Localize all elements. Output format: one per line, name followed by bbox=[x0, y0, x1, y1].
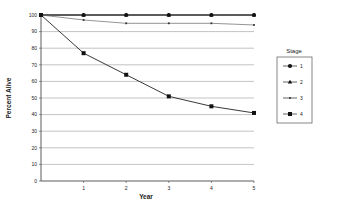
y-tick-label: 90 bbox=[31, 28, 37, 34]
square-marker-icon bbox=[39, 13, 43, 17]
dash-marker-icon bbox=[125, 22, 127, 24]
dash-marker-icon bbox=[168, 22, 170, 24]
y-tick-label: 60 bbox=[31, 78, 37, 84]
series-stage-3 bbox=[40, 14, 255, 26]
dash-marker-icon bbox=[253, 24, 255, 26]
square-marker-icon bbox=[252, 111, 256, 115]
square-marker-icon bbox=[209, 104, 213, 108]
legend-box bbox=[277, 57, 312, 123]
series-stage-4 bbox=[39, 13, 256, 115]
x-axis-title: Year bbox=[139, 193, 153, 200]
legend-label: 2 bbox=[300, 79, 303, 85]
legend-title: Stage bbox=[286, 48, 302, 54]
legend-label: 1 bbox=[300, 63, 303, 69]
x-tick-label: 1 bbox=[82, 185, 85, 191]
y-tick-label: 80 bbox=[31, 45, 37, 51]
dash-marker-icon bbox=[211, 22, 213, 24]
circle-marker-icon bbox=[288, 64, 292, 68]
square-marker-icon bbox=[167, 94, 171, 98]
y-tick-label: 20 bbox=[31, 145, 37, 151]
legend: Stage 1234 bbox=[277, 48, 312, 123]
y-tick-label: 0 bbox=[34, 178, 37, 184]
gridlines bbox=[41, 15, 254, 164]
survival-chart: 0102030405060708090100 12345 Percent Ali… bbox=[0, 0, 339, 207]
x-axis-ticks: 12345 bbox=[82, 181, 255, 191]
square-marker-icon bbox=[124, 73, 128, 77]
x-tick-label: 2 bbox=[125, 185, 128, 191]
x-tick-label: 5 bbox=[253, 185, 256, 191]
data-series bbox=[39, 13, 256, 115]
x-tick-label: 4 bbox=[210, 185, 213, 191]
y-tick-label: 40 bbox=[31, 111, 37, 117]
y-axis-ticks: 0102030405060708090100 bbox=[29, 12, 41, 184]
y-tick-label: 50 bbox=[31, 95, 37, 101]
x-tick-label: 3 bbox=[167, 185, 170, 191]
y-tick-label: 30 bbox=[31, 128, 37, 134]
square-marker-icon bbox=[82, 51, 86, 55]
square-marker-icon bbox=[288, 112, 292, 116]
y-tick-label: 70 bbox=[31, 62, 37, 68]
legend-label: 4 bbox=[300, 111, 303, 117]
dash-marker-icon bbox=[83, 19, 85, 21]
y-axis-title: Percent Alive bbox=[5, 77, 12, 118]
legend-label: 3 bbox=[300, 95, 303, 101]
series-stage-2 bbox=[39, 13, 256, 17]
dash-marker-icon bbox=[289, 97, 291, 99]
y-tick-label: 10 bbox=[31, 161, 37, 167]
y-tick-label: 100 bbox=[29, 12, 38, 18]
